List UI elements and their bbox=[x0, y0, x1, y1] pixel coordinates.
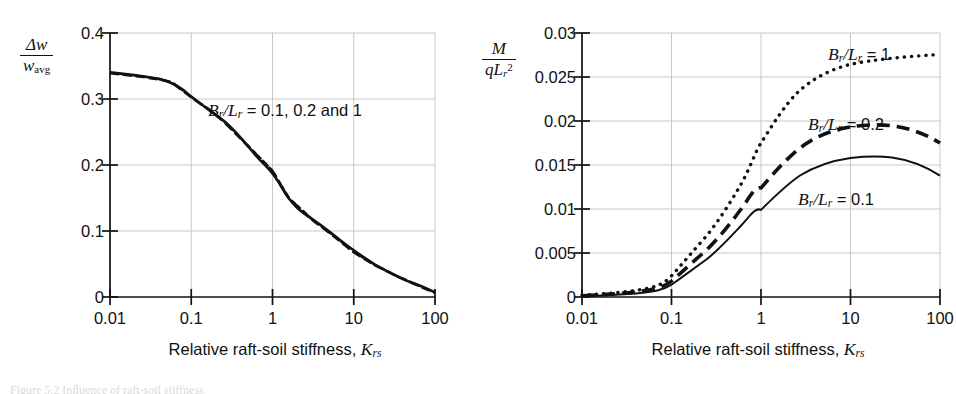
x-axis-label-left: Relative raft-soil stiffness, Krs bbox=[85, 339, 465, 360]
x-tick-label: 0.01 bbox=[94, 309, 126, 328]
x-axis-label-right-symbol-sub: rs bbox=[856, 347, 865, 359]
x-tick-label: 100 bbox=[926, 309, 954, 328]
x-axis-label-right-symbol: K bbox=[844, 339, 856, 359]
x-tick-labels-left: 0.01 0.1 1 10 100 bbox=[0, 309, 478, 333]
curve-label-br-lr-0-1: Br/Lr = 0.1 bbox=[798, 189, 874, 210]
chart-panel-right: M qLr2 0 0.005 0.01 0.015 0.02 0.025 0.0… bbox=[478, 0, 956, 391]
x-tick-labels-right: 0.01 0.1 1 10 100 bbox=[478, 309, 956, 333]
gridlines-left bbox=[110, 33, 435, 297]
x-tick-label: 0.1 bbox=[660, 309, 683, 328]
x-tick-label: 0.01 bbox=[566, 309, 598, 328]
x-tick-label: 100 bbox=[421, 309, 449, 328]
x-tick-label: 0.1 bbox=[180, 309, 203, 328]
curve-label-value: 0.2 bbox=[861, 115, 884, 133]
x-tick-label: 1 bbox=[756, 309, 765, 328]
figure-caption-partial: Figure 5.2 Inﬂuence of raft-soil stiffne… bbox=[10, 383, 204, 394]
x-axis-label-left-symbol: K bbox=[361, 339, 373, 359]
x-axis-label-left-text: Relative raft-soil stiffness, bbox=[169, 340, 361, 358]
x-tick-label: 1 bbox=[268, 309, 277, 328]
x-axis-label-right-text: Relative raft-soil stiffness, bbox=[652, 340, 844, 358]
annotation-left: Br/Lr = 0.1, 0.2 and 1 bbox=[208, 100, 362, 121]
curve-label-value: 0.1 bbox=[851, 190, 874, 208]
curve-label-br-lr-0-2: Br/Lr = 0.2 bbox=[808, 114, 884, 135]
curve-label-br-lr-1: Br/Lr = 1 bbox=[828, 44, 890, 65]
gridlines-right bbox=[582, 33, 940, 297]
x-tick-label: 10 bbox=[841, 309, 859, 328]
x-axis-label-left-symbol-sub: rs bbox=[373, 347, 382, 359]
x-axis-label-right: Relative raft-soil stiffness, Krs bbox=[558, 339, 956, 360]
curve-label-value: 1 bbox=[881, 45, 890, 63]
chart-panel-left: Δw wavg 0 0.1 0.2 0.3 0.4 bbox=[0, 0, 478, 391]
x-tick-label: 10 bbox=[345, 309, 363, 328]
